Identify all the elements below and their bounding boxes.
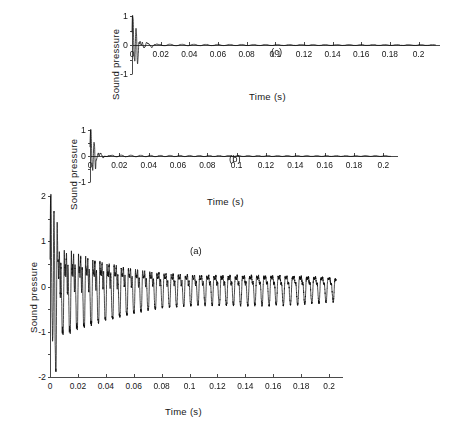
panel-a-tag: (a) (190, 245, 202, 256)
x-tick-label: 0.14 (324, 49, 340, 59)
panel-c-waveform-canvas (130, 14, 442, 76)
panel-a (48, 193, 345, 380)
x-tick-label: 0.14 (237, 381, 253, 391)
y-tick-label: -1 (28, 327, 46, 337)
x-tick-label: 0.08 (153, 381, 169, 391)
x-tick-label: 0.02 (111, 160, 127, 170)
x-tick-label: 0.12 (209, 381, 225, 391)
x-tick-label: 0.2 (413, 49, 425, 59)
x-tick-label: 0.08 (199, 160, 215, 170)
x-tick-label: 0.02 (152, 49, 168, 59)
y-tick-label: -1 (68, 177, 86, 187)
x-tick-label: 0.1 (231, 160, 243, 170)
x-tick-label: 0.16 (353, 49, 369, 59)
x-tick-label: 0.12 (258, 160, 274, 170)
panel-b-waveform-canvas (88, 128, 400, 184)
panel-c-x-axis-title: Time (s) (249, 91, 286, 102)
y-tick-label: 0 (110, 40, 128, 50)
y-tick-label: -2 (28, 372, 46, 382)
x-tick-label: 0 (130, 49, 135, 59)
y-tick-label: 1 (28, 236, 46, 246)
x-tick-label: 0.16 (265, 381, 281, 391)
x-tick-label: 0.14 (287, 160, 303, 170)
x-tick-label: 0.1 (184, 381, 196, 391)
panel-b (88, 128, 400, 184)
x-tick-label: 0.08 (238, 49, 254, 59)
y-tick-label: 0 (68, 151, 86, 161)
x-tick-label: 0.16 (317, 160, 333, 170)
y-tick-label: 1 (110, 11, 128, 21)
x-tick-label: 0.06 (210, 49, 226, 59)
panel-a-waveform-canvas (48, 193, 345, 380)
x-tick-label: 0.06 (126, 381, 142, 391)
x-tick-label: 0.18 (293, 381, 309, 391)
y-tick-label: 0 (28, 282, 46, 292)
x-tick-label: 0 (48, 381, 53, 391)
y-tick-label: 2 (28, 191, 46, 201)
x-tick-label: 0.04 (98, 381, 114, 391)
x-tick-label: 0.18 (346, 160, 362, 170)
panel-c (130, 14, 442, 76)
x-tick-label: 0.2 (323, 381, 335, 391)
x-tick-label: 0.1 (269, 49, 281, 59)
x-tick-label: 0.18 (382, 49, 398, 59)
x-tick-label: 0.06 (170, 160, 186, 170)
y-tick-label: 1 (68, 125, 86, 135)
panel-a-x-axis-title: Time (s) (165, 406, 202, 417)
x-tick-label: 0.02 (70, 381, 86, 391)
y-tick-label: -1 (110, 69, 128, 79)
sound-pressure-waveform-figure: Sound pressure Time (s) (c) 00.020.040.0… (0, 0, 456, 433)
panel-a-y-axis-title: Sound pressure (28, 262, 39, 333)
x-tick-label: 0.2 (378, 160, 390, 170)
x-tick-label: 0 (88, 160, 93, 170)
x-tick-label: 0.12 (296, 49, 312, 59)
x-tick-label: 0.04 (181, 49, 197, 59)
x-tick-label: 0.04 (141, 160, 157, 170)
